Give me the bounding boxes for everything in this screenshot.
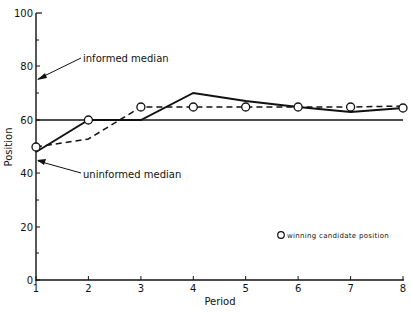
svg-text:3: 3 — [138, 283, 144, 294]
x-axis-title: Period — [204, 296, 235, 307]
svg-text:uninformed median: uninformed median — [83, 169, 181, 180]
svg-text:20: 20 — [20, 222, 33, 233]
svg-text:60: 60 — [20, 115, 33, 126]
svg-text:8: 8 — [400, 283, 406, 294]
svg-text:40: 40 — [20, 168, 33, 179]
arrow-icon — [37, 73, 47, 80]
uninformed-median-annotation: uninformed median — [37, 159, 181, 180]
y-axis-title: Position — [3, 128, 14, 167]
arrow-icon — [37, 159, 46, 165]
legend: winning candidate position — [278, 232, 389, 240]
y-tick-labels: 0 20 40 60 80 100 — [14, 8, 33, 286]
svg-text:80: 80 — [20, 61, 33, 72]
svg-text:2: 2 — [85, 283, 91, 294]
svg-text:informed median: informed median — [83, 53, 169, 64]
x-tick-labels: 1 2 3 4 5 6 7 8 — [33, 283, 406, 294]
position-chart: 0 20 40 60 80 100 1 2 3 4 5 6 7 8 Period… — [0, 0, 411, 312]
informed-median-annotation: informed median — [37, 53, 169, 80]
svg-text:4: 4 — [190, 283, 196, 294]
svg-text:winning candidate position: winning candidate position — [287, 232, 389, 240]
svg-text:1: 1 — [33, 283, 39, 294]
svg-text:5: 5 — [243, 283, 249, 294]
winning-candidate-markers — [32, 103, 407, 151]
svg-text:6: 6 — [295, 283, 301, 294]
svg-text:100: 100 — [14, 8, 33, 19]
legend-marker-icon — [278, 232, 285, 239]
svg-text:7: 7 — [347, 283, 353, 294]
